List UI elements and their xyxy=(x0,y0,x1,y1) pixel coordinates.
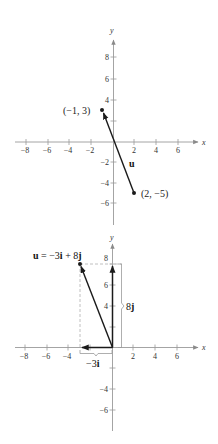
svg-text:2: 2 xyxy=(131,352,135,361)
bottom-graph: x y −8 −6 −4 2 4 6 xyxy=(15,233,206,431)
svg-text:−6: −6 xyxy=(100,199,109,208)
svg-text:−4: −4 xyxy=(63,352,72,361)
svg-text:−8: −8 xyxy=(20,352,29,361)
initial-point-dot xyxy=(132,191,136,195)
svg-text:−6: −6 xyxy=(43,146,52,155)
terminal-point-dot xyxy=(100,108,104,112)
svg-text:−2: −2 xyxy=(86,146,95,155)
vector-u-label: u xyxy=(129,158,135,169)
svg-text:6: 6 xyxy=(105,75,109,84)
svg-text:4: 4 xyxy=(153,352,157,361)
svg-text:4: 4 xyxy=(104,302,108,311)
i-component-brace xyxy=(80,350,112,356)
bottom-y-axis-label: y xyxy=(109,233,114,242)
top-graph: x y −8 −6 −4 −2 2 4 6 xyxy=(15,26,206,225)
figure: x y −8 −6 −4 −2 2 4 6 xyxy=(0,0,218,444)
bottom-x-axis-label: x xyxy=(201,343,206,352)
svg-text:6: 6 xyxy=(175,352,179,361)
svg-text:4: 4 xyxy=(105,96,109,105)
top-x-axis-label: x xyxy=(201,138,206,147)
vector-equation-label: u = −3i + 8j xyxy=(33,250,82,261)
vector-u-endpoint xyxy=(78,262,82,266)
svg-text:8: 8 xyxy=(105,53,109,62)
j-component-brace xyxy=(118,264,124,348)
j-component-label: 8j xyxy=(126,301,134,312)
svg-text:4: 4 xyxy=(154,146,158,155)
svg-text:−4: −4 xyxy=(100,179,109,188)
dashed-guides xyxy=(80,264,122,348)
svg-text:−6: −6 xyxy=(99,406,108,415)
top-y-tick-labels: 8 6 4 −2 −4 −6 xyxy=(100,53,109,208)
svg-text:−4: −4 xyxy=(99,385,108,394)
svg-text:−6: −6 xyxy=(42,352,51,361)
svg-text:−4: −4 xyxy=(64,146,73,155)
initial-point-label: (2, −5) xyxy=(141,188,168,200)
svg-text:6: 6 xyxy=(176,146,180,155)
svg-text:−8: −8 xyxy=(21,146,30,155)
top-x-tick-labels: −8 −6 −4 −2 2 4 6 xyxy=(21,146,180,155)
svg-text:−2: −2 xyxy=(100,158,109,167)
svg-text:6: 6 xyxy=(104,281,108,290)
svg-text:2: 2 xyxy=(132,146,136,155)
svg-text:8: 8 xyxy=(104,254,108,263)
top-y-axis-label: y xyxy=(109,26,114,35)
terminal-point-label: (−1, 3) xyxy=(63,105,90,117)
i-component-label: −3i xyxy=(86,358,100,369)
